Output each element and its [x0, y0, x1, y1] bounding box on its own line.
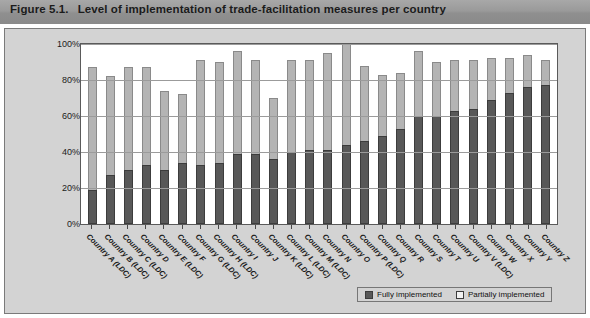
x-axis-tick: [524, 225, 533, 230]
bar-segment-partially-implemented[interactable]: [342, 44, 351, 145]
bar-segment-partially-implemented[interactable]: [287, 60, 296, 152]
x-axis-tick: [433, 225, 442, 230]
x-axis-label-cell: Country K (LDC): [269, 231, 278, 311]
bar-column[interactable]: [432, 44, 441, 224]
bar-segment-partially-implemented[interactable]: [414, 51, 423, 116]
legend-label-partially: Partially implemented: [468, 290, 544, 299]
bar-segment-partially-implemented[interactable]: [505, 58, 514, 92]
bar-segment-partially-implemented[interactable]: [251, 60, 260, 154]
x-axis-tick: [123, 225, 132, 230]
x-axis-tick: [360, 225, 369, 230]
bar-column[interactable]: [360, 44, 369, 224]
bar-segment-fully-implemented[interactable]: [215, 163, 224, 224]
bar-column[interactable]: [88, 44, 97, 224]
bar-column[interactable]: [342, 44, 351, 224]
bar-segment-fully-implemented[interactable]: [360, 141, 369, 224]
x-axis-tick: [87, 225, 96, 230]
bar-segment-fully-implemented[interactable]: [160, 170, 169, 224]
bar-segment-fully-implemented[interactable]: [432, 116, 441, 224]
bar-column[interactable]: [269, 44, 278, 224]
bar-column[interactable]: [469, 44, 478, 224]
bar-column[interactable]: [378, 44, 387, 224]
bar-segment-fully-implemented[interactable]: [124, 170, 133, 224]
figure-title-text: Level of implementation of trade-facilit…: [78, 3, 446, 15]
bar-segment-partially-implemented[interactable]: [215, 62, 224, 163]
x-axis-tick: [469, 225, 478, 230]
bar-segment-partially-implemented[interactable]: [469, 60, 478, 109]
bar-column[interactable]: [414, 44, 423, 224]
bar-column[interactable]: [323, 44, 332, 224]
gridline: [81, 44, 557, 45]
bar-series-group: [81, 44, 557, 224]
bar-segment-partially-implemented[interactable]: [378, 75, 387, 136]
bar-segment-fully-implemented[interactable]: [450, 111, 459, 224]
bar-segment-partially-implemented[interactable]: [124, 67, 133, 170]
x-axis-label-cell: Country N: [323, 231, 332, 311]
x-axis-label-cell: Country B (LDC): [105, 231, 114, 311]
bar-segment-partially-implemented[interactable]: [106, 76, 115, 175]
bar-column[interactable]: [305, 44, 314, 224]
bar-segment-partially-implemented[interactable]: [233, 51, 242, 154]
x-axis-tick: [487, 225, 496, 230]
x-axis-tick: [396, 225, 405, 230]
bar-segment-fully-implemented[interactable]: [269, 159, 278, 224]
x-axis-tick: [506, 225, 515, 230]
x-axis-label-cell: Country O: [342, 231, 351, 311]
bar-segment-fully-implemented[interactable]: [342, 145, 351, 224]
gridline: [81, 188, 557, 189]
bar-segment-fully-implemented[interactable]: [106, 175, 115, 224]
x-axis-label-cell: Country H (LDC): [214, 231, 223, 311]
bar-segment-partially-implemented[interactable]: [305, 60, 314, 150]
bar-segment-partially-implemented[interactable]: [160, 91, 169, 170]
bar-segment-fully-implemented[interactable]: [523, 87, 532, 224]
bar-segment-fully-implemented[interactable]: [88, 190, 97, 224]
bar-segment-fully-implemented[interactable]: [196, 165, 205, 224]
x-axis-tick: [196, 225, 205, 230]
bar-column[interactable]: [396, 44, 405, 224]
bar-segment-partially-implemented[interactable]: [360, 66, 369, 142]
bar-column[interactable]: [124, 44, 133, 224]
bar-column[interactable]: [523, 44, 532, 224]
x-axis-label-cell: Country I: [232, 231, 241, 311]
bar-column[interactable]: [160, 44, 169, 224]
bar-column[interactable]: [142, 44, 151, 224]
bar-segment-partially-implemented[interactable]: [396, 73, 405, 129]
bar-segment-fully-implemented[interactable]: [487, 100, 496, 224]
bar-segment-fully-implemented[interactable]: [469, 109, 478, 224]
bar-segment-partially-implemented[interactable]: [88, 67, 97, 189]
bar-segment-fully-implemented[interactable]: [541, 85, 550, 224]
x-axis-tick: [287, 225, 296, 230]
bar-segment-fully-implemented[interactable]: [178, 163, 187, 224]
bar-segment-partially-implemented[interactable]: [196, 60, 205, 164]
bar-segment-partially-implemented[interactable]: [432, 62, 441, 116]
x-axis-tick: [451, 225, 460, 230]
x-axis-label-cell: Country J: [251, 231, 260, 311]
x-axis-ticks: [80, 225, 558, 230]
x-axis-tick: [159, 225, 168, 230]
bar-column[interactable]: [450, 44, 459, 224]
bar-column[interactable]: [487, 44, 496, 224]
bar-column[interactable]: [251, 44, 260, 224]
bar-column[interactable]: [106, 44, 115, 224]
bar-column[interactable]: [215, 44, 224, 224]
bar-segment-fully-implemented[interactable]: [142, 165, 151, 224]
bar-segment-partially-implemented[interactable]: [541, 60, 550, 85]
bar-column[interactable]: [505, 44, 514, 224]
bar-column[interactable]: [178, 44, 187, 224]
bar-segment-fully-implemented[interactable]: [378, 136, 387, 224]
x-axis-tick: [105, 225, 114, 230]
bar-segment-partially-implemented[interactable]: [323, 53, 332, 150]
bar-segment-fully-implemented[interactable]: [505, 93, 514, 224]
empty-square-icon: [456, 291, 464, 299]
x-axis-tick: [378, 225, 387, 230]
bar-segment-fully-implemented[interactable]: [414, 116, 423, 224]
bar-segment-partially-implemented[interactable]: [269, 98, 278, 159]
plot-area: [80, 43, 558, 225]
bar-column[interactable]: [541, 44, 550, 224]
bar-segment-fully-implemented[interactable]: [396, 129, 405, 224]
bar-column[interactable]: [233, 44, 242, 224]
bar-segment-partially-implemented[interactable]: [523, 55, 532, 87]
bar-segment-partially-implemented[interactable]: [450, 60, 459, 110]
bar-column[interactable]: [196, 44, 205, 224]
bar-column[interactable]: [287, 44, 296, 224]
